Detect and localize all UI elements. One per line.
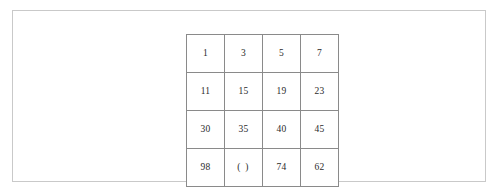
grid-cell-r3c1: 30 <box>187 111 225 149</box>
grid-cell-r1c3: 5 <box>263 35 301 73</box>
grid-cell-r2c2: 15 <box>225 73 263 111</box>
grid-cell-r1c1: 1 <box>187 35 225 73</box>
grid-cell-r1c2: 3 <box>225 35 263 73</box>
grid-cell-r4c1: 98 <box>187 149 225 187</box>
table-row: 98 ( ) 74 62 <box>187 149 339 187</box>
table-row: 30 35 40 45 <box>187 111 339 149</box>
number-sequence-grid: 1 3 5 7 11 15 19 23 30 35 40 45 98 ( ) 7… <box>186 34 339 187</box>
document-frame: 1 3 5 7 11 15 19 23 30 35 40 45 98 ( ) 7… <box>12 10 486 182</box>
grid-cell-r4c4: 62 <box>301 149 339 187</box>
table-row: 11 15 19 23 <box>187 73 339 111</box>
table-row: 1 3 5 7 <box>187 35 339 73</box>
grid-cell-r3c3: 40 <box>263 111 301 149</box>
grid-cell-r3c4: 45 <box>301 111 339 149</box>
grid-cell-r1c4: 7 <box>301 35 339 73</box>
grid-cell-r2c4: 23 <box>301 73 339 111</box>
grid-cell-r4c3: 74 <box>263 149 301 187</box>
grid-cell-r3c2: 35 <box>225 111 263 149</box>
grid-cell-r2c1: 11 <box>187 73 225 111</box>
grid-cell-answer-blank[interactable]: ( ) <box>225 149 263 187</box>
grid-cell-r2c3: 19 <box>263 73 301 111</box>
